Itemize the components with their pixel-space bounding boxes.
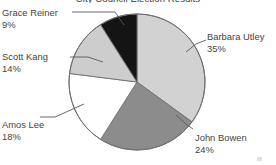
slice-label-scott-kang: Scott Kang 14% [2,51,48,74]
pie-chart-figure: City Council Election Results Grace Rein… [0,0,276,165]
slice-label-grace-reiner: Grace Reiner 9% [2,7,58,30]
slice-label-amos-lee-name: Amos Lee [2,119,44,131]
slice-label-john-bowen-name: John Bowen [195,132,247,144]
slice-label-grace-reiner-name: Grace Reiner [2,7,58,19]
slice-label-john-bowen-percent: 24% [195,144,247,156]
slice-label-grace-reiner-percent: 9% [2,19,58,31]
slice-label-barbara-utley-name: Barbara Utley [207,31,264,43]
slice-label-barbara-utley-percent: 35% [207,43,264,55]
slice-label-scott-kang-percent: 14% [2,63,48,75]
slice-label-john-bowen: John Bowen 24% [195,132,247,155]
slice-label-amos-lee: Amos Lee 18% [2,119,44,142]
slice-label-scott-kang-name: Scott Kang [2,51,48,63]
slice-label-barbara-utley: Barbara Utley 35% [207,31,264,54]
slice-label-amos-lee-percent: 18% [2,131,44,143]
scan-artifact [257,157,262,161]
pie-slices-group [69,14,205,150]
